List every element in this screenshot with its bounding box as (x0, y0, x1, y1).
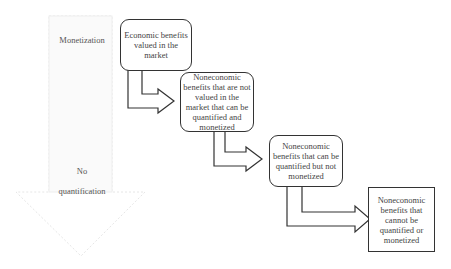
box-noneconomic-quantified-not-monetized: Noneconomic benefits that can be quantif… (269, 135, 343, 187)
box-noneconomic-not-quantified: Noneconomic benefits that cannot be quan… (368, 187, 435, 252)
monetization-label: Monetization (52, 35, 112, 45)
connector-arrow-3 (287, 185, 370, 232)
connector-arrow-2 (214, 130, 262, 171)
box-noneconomic-quantified-monetized: Noneconomic benefits that are not valued… (180, 72, 254, 132)
quantification-label: quantification (52, 186, 112, 196)
no-label: No (52, 166, 112, 176)
connector-arrow-1 (128, 70, 174, 113)
box-economic-benefits: Economic benefits valued in the market (120, 19, 192, 71)
